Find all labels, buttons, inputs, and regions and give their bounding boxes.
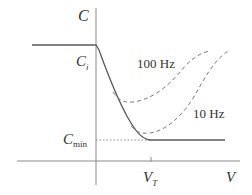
- y-axis-label: C: [78, 8, 89, 24]
- series-label-10hz: 10 Hz: [193, 107, 224, 120]
- vt-label-main: V: [143, 169, 152, 185]
- cmin-label: Cmin: [63, 132, 87, 149]
- ci-label-main: C: [76, 53, 86, 69]
- cmin-label-sub: min: [73, 139, 87, 149]
- cv-curve-figure: C Ci Cmin VT V 100 Hz 10 Hz: [0, 0, 252, 195]
- cmin-label-main: C: [63, 131, 73, 147]
- vt-label-sub: T: [152, 178, 157, 188]
- series-label-100hz: 100 Hz: [137, 57, 175, 70]
- vt-label: VT: [143, 170, 157, 188]
- x-axis-label: V: [226, 170, 235, 185]
- ci-label: Ci: [76, 54, 89, 72]
- cv-curve-plot: [0, 0, 252, 195]
- ci-label-sub: i: [86, 62, 89, 72]
